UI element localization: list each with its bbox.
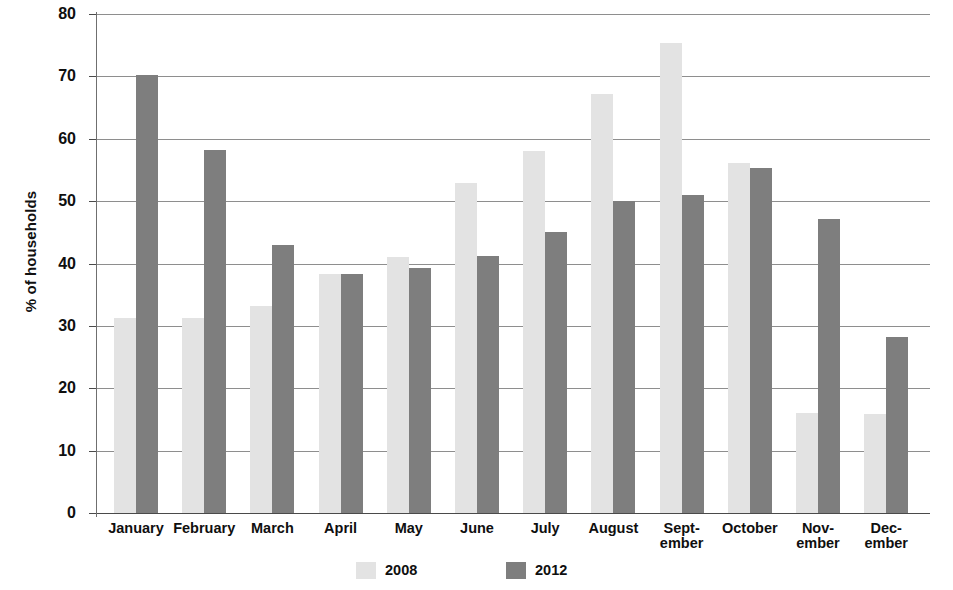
bar-january-2012 (136, 75, 158, 513)
bar-march-2008 (250, 306, 272, 513)
bar-chart: % of households 01020304050607080 Januar… (0, 0, 953, 590)
bar-may-2012 (409, 268, 431, 513)
bar-august-2012 (613, 201, 635, 513)
legend-item-2008: 2008 (356, 562, 417, 579)
bar-may-2008 (387, 257, 409, 513)
y-axis-tick-label: 50 (30, 193, 76, 209)
x-axis-tick-label: Dec-ember (841, 521, 931, 551)
y-axis-tick-label: 0 (30, 505, 76, 521)
legend-label-2012: 2012 (535, 563, 567, 578)
legend-swatch-2008 (356, 562, 376, 579)
x-axis-tick-label-line: Dec- (841, 521, 931, 536)
bar-october-2008 (728, 163, 750, 513)
bar-november-2012 (818, 219, 840, 513)
y-axis-tick-label: 20 (30, 380, 76, 396)
x-axis-tick-label-line: ember (841, 536, 931, 551)
bar-february-2008 (182, 318, 204, 513)
bar-december-2012 (886, 337, 908, 513)
bar-february-2012 (204, 150, 226, 513)
y-axis-tick-label: 80 (30, 6, 76, 22)
bar-july-2008 (523, 151, 545, 513)
x-axis-tick-label-line: ember (637, 536, 727, 551)
gridline (97, 14, 930, 15)
bar-april-2012 (341, 274, 363, 513)
gridline (97, 76, 930, 77)
bar-november-2008 (796, 413, 818, 513)
bar-june-2008 (455, 183, 477, 513)
bar-september-2012 (682, 195, 704, 513)
bar-september-2008 (660, 43, 682, 513)
y-axis-tick-label: 30 (30, 318, 76, 334)
bar-december-2008 (864, 414, 886, 513)
bar-august-2008 (591, 94, 613, 513)
legend-item-2012: 2012 (506, 562, 567, 579)
bar-july-2012 (545, 232, 567, 513)
bar-october-2012 (750, 168, 772, 513)
y-axis-tick-label: 10 (30, 443, 76, 459)
chart-legend: 2008 2012 (0, 562, 953, 586)
plot-area (97, 14, 930, 513)
gridline (97, 139, 930, 140)
y-axis-tick-label: 60 (30, 131, 76, 147)
y-axis-tick-label: 70 (30, 68, 76, 84)
legend-label-2008: 2008 (385, 563, 417, 578)
bar-april-2008 (319, 274, 341, 513)
bar-june-2012 (477, 256, 499, 513)
legend-swatch-2012 (506, 562, 526, 579)
gridline (97, 513, 930, 514)
y-axis-tick-label: 40 (30, 256, 76, 272)
bar-march-2012 (272, 245, 294, 513)
bar-january-2008 (114, 318, 136, 513)
